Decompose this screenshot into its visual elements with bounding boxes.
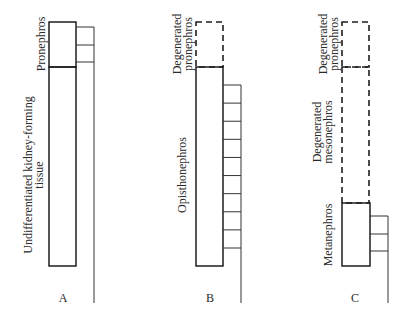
degenerated-pronephros-box xyxy=(342,22,369,67)
kidney-development-diagram: Pronephros Undifferentiated kidney-formi… xyxy=(0,0,409,317)
label-degenerated-pronephros-line2: pronephros xyxy=(327,17,341,71)
metanephros-box xyxy=(342,203,370,266)
label-opisthonephros: Opisthonephros xyxy=(175,137,189,213)
panel-letter-a: A xyxy=(59,291,68,305)
label-pronephros: Pronephros xyxy=(34,16,48,71)
label-degenerated-line2: pronephros xyxy=(181,17,195,71)
panel-a: Pronephros Undifferentiated kidney-formi… xyxy=(21,16,94,305)
opisthonephric-tubules xyxy=(223,85,241,248)
opisthonephros-box xyxy=(196,67,223,266)
panel-letter-c: C xyxy=(351,291,359,305)
undifferentiated-tissue-box xyxy=(49,67,76,266)
panel-letter-b: B xyxy=(206,291,214,305)
label-tissue-line2: tissue xyxy=(32,161,46,188)
label-metanephros: Metanephros xyxy=(321,203,335,266)
pronephric-tubules xyxy=(76,27,94,62)
degenerated-mesonephros-box xyxy=(342,67,369,203)
label-degenerated-mesonephros-line2: mesonephros xyxy=(321,100,335,164)
degenerated-pronephros-box xyxy=(196,22,223,67)
panel-b: Degenerated pronephros Opisthonephros B xyxy=(170,14,241,305)
panel-c: Degenerated pronephros Degenerated meson… xyxy=(310,14,388,305)
metanephric-tubules xyxy=(370,216,388,251)
pronephros-box xyxy=(49,22,76,67)
